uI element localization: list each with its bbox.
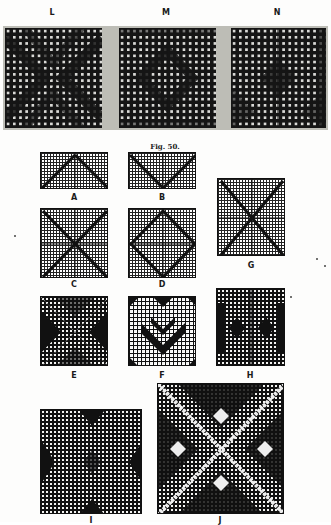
label-b: B (152, 193, 172, 202)
diagram-a (40, 152, 108, 189)
diamond-lines-d (129, 209, 196, 278)
chevron-weave-pattern-f (129, 297, 196, 366)
label-m: M (156, 8, 176, 17)
label-d: D (152, 280, 172, 289)
chevron-up-lines-a (41, 153, 108, 189)
fabric-sample-m (119, 28, 216, 128)
diamond-pattern-m (119, 28, 216, 128)
pattern-e (40, 296, 108, 366)
label-a: A (64, 193, 84, 202)
diagonal-pattern-l (5, 28, 102, 128)
label-f: F (152, 371, 172, 380)
diamond-pattern-n (231, 28, 326, 128)
scan-speck (14, 235, 16, 237)
fabric-sample-n (231, 28, 326, 128)
label-l: L (42, 8, 62, 17)
fabric-sample-l (5, 28, 102, 128)
label-e: E (64, 371, 84, 380)
scan-speck (324, 265, 326, 267)
label-c: C (64, 280, 84, 289)
diagram-g (217, 178, 285, 256)
pattern-i (40, 409, 142, 514)
x-weave-pattern-e (41, 297, 108, 366)
label-h: H (240, 371, 260, 380)
label-j: J (210, 516, 230, 525)
pattern-h (216, 288, 285, 366)
x-cross-lines-g (218, 179, 285, 256)
label-g: G (241, 261, 261, 270)
pattern-f (128, 296, 196, 366)
diagram-d (128, 208, 196, 278)
label-i: I (81, 516, 101, 525)
pattern-j (157, 383, 284, 514)
label-n: N (267, 8, 287, 17)
scan-speck (316, 258, 318, 260)
figure-caption: Fig. 50. (135, 142, 195, 151)
diagram-b (128, 152, 196, 189)
chevron-down-lines-b (129, 153, 196, 189)
diamond-weave-pattern-h (217, 289, 285, 366)
x-cross-lines-c (41, 209, 108, 278)
x-diamond-weave-pattern-j (158, 384, 284, 514)
diagram-c (40, 208, 108, 278)
star-weave-pattern-i (41, 410, 142, 514)
scan-speck (290, 296, 292, 298)
